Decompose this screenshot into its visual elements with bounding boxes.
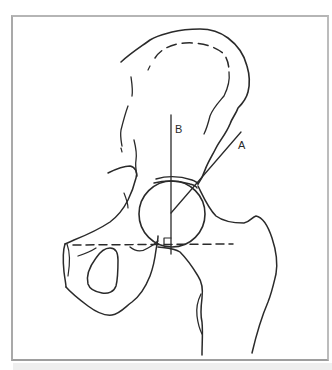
label-line-a: A — [238, 140, 245, 151]
ilium-left-segment-1 — [131, 77, 132, 96]
acetabulum-lower-stroke — [130, 241, 158, 251]
pelvis-lower-curve — [65, 166, 137, 244]
ilium-left-segment-2 — [121, 106, 128, 146]
pubis-upper-stroke — [78, 248, 96, 256]
femur-lateral-outline — [198, 186, 277, 353]
iliac-crest-dashed-fragment — [148, 66, 150, 70]
obturator-foramen — [87, 248, 118, 293]
iliac-crest-dashed-contour — [155, 43, 229, 72]
right-angle-marker — [164, 238, 171, 244]
ilium-inner-contour — [204, 72, 229, 134]
label-line-b: B — [175, 124, 182, 135]
pubis-left-edge-inner — [67, 244, 69, 276]
horizontal-dashed-reference-line — [73, 244, 233, 245]
hip-joint-drawing — [0, 0, 332, 370]
diagram-page: B A — [0, 0, 332, 370]
femur-medial-outline — [158, 247, 202, 355]
ilium-outline — [121, 29, 249, 184]
pubis-left-edge — [63, 244, 66, 287]
femoral-head — [139, 181, 205, 247]
ilium-left-segment-4 — [121, 148, 122, 152]
